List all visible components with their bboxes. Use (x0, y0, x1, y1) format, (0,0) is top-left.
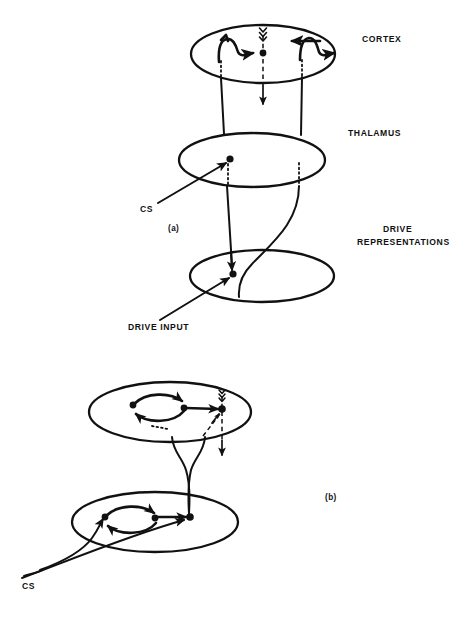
panel-b: CS (b) (22, 382, 337, 591)
connection-arrow-into-drive-node (231, 252, 232, 270)
cortex-b-loop-upper (134, 395, 182, 404)
cortex-center-node (260, 50, 267, 57)
panel-b-funnel-right (188, 437, 205, 513)
cs-input-arrow-b-2 (40, 519, 103, 570)
drive-representations-label-line1: DRIVE (383, 224, 412, 234)
panel-b-funnel-left (172, 437, 190, 513)
cortex-b-left-node (130, 402, 137, 409)
drive-b-mid-node (152, 515, 159, 522)
figure-root: CORTEX CS THALAMUS DRIVE INPUT DRIVE REP… (0, 0, 457, 624)
panel-a-marker: (a) (168, 224, 179, 233)
drive-ellipse-b (72, 492, 238, 552)
connection-thalamus-right-to-drive (239, 186, 299, 297)
cs-label-b: CS (22, 581, 35, 591)
thalamus-node (226, 155, 233, 162)
cortex-b-dotted-stub (152, 426, 168, 429)
cortex-b-mid-node (181, 405, 188, 412)
network-diagram: CORTEX CS THALAMUS DRIVE INPUT DRIVE REP… (0, 0, 457, 624)
cortex-ellipse-b (89, 382, 251, 442)
cortex-b-loop-lower (136, 411, 184, 421)
connection-cortex-left-to-thalamus (221, 78, 224, 134)
drive-b-left-node (102, 514, 109, 521)
connection-cortex-right-to-thalamus (301, 77, 302, 135)
cortex-left-hook-arrow (219, 39, 253, 62)
drive-input-label: DRIVE INPUT (128, 322, 189, 332)
drive-b-loop-upper (106, 507, 154, 516)
cs-input-branch-link (24, 569, 44, 576)
drive-representations-ellipse (190, 250, 334, 302)
drive-representations-label-line2: REPRESENTATIONS (357, 237, 450, 247)
drive-node (229, 270, 236, 277)
panel-a: CORTEX CS THALAMUS DRIVE INPUT DRIVE REP… (128, 25, 450, 332)
cortex-b-dashed-diagonal-arrow (212, 414, 219, 423)
cortex-label: CORTEX (362, 34, 401, 44)
cortex-b-right-node (218, 405, 226, 413)
cs-input-arrow-b-1 (22, 520, 184, 578)
cs-label-a: CS (140, 204, 153, 214)
panel-b-marker: (b) (325, 493, 337, 502)
thalamus-label: THALAMUS (348, 128, 401, 138)
cortex-b-mid-to-right-arrow (186, 408, 218, 409)
drive-b-right-node (186, 513, 194, 521)
